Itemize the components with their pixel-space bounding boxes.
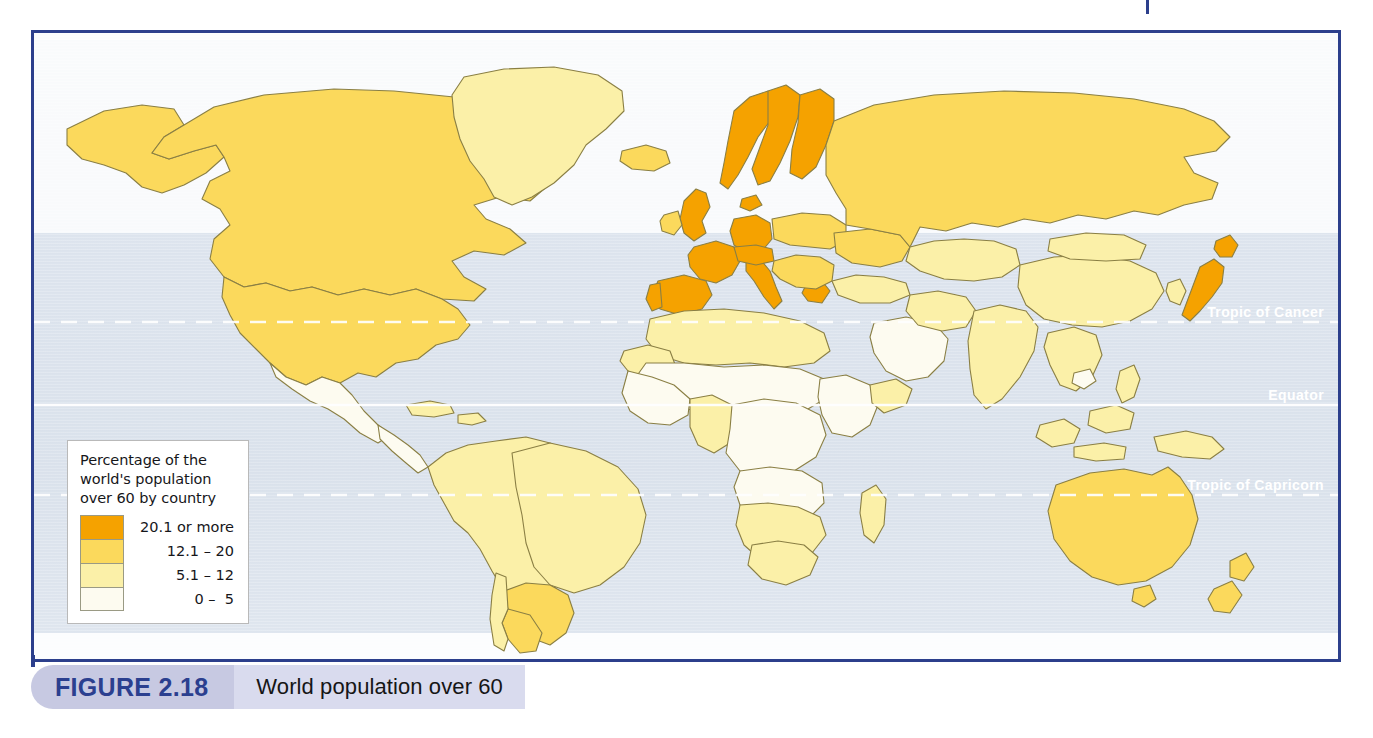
region-indonesia-java bbox=[1074, 443, 1126, 461]
legend-row: 0 – 5 bbox=[80, 587, 238, 611]
region-switzerland-austria bbox=[734, 245, 774, 265]
legend-swatch-tier-2 bbox=[80, 563, 124, 587]
legend-swatch-tier-3 bbox=[80, 587, 124, 611]
equator-label: Equator bbox=[1268, 387, 1324, 403]
legend-row: 12.1 – 20 bbox=[80, 539, 238, 563]
map-legend: Percentage of the world's population ove… bbox=[67, 440, 249, 624]
legend-label-tier-1: 12.1 – 20 bbox=[124, 539, 238, 563]
legend-label-tier-2: 5.1 – 12 bbox=[124, 563, 238, 587]
page-canvas: Tropic of Cancer Equator Tropic of Capri… bbox=[0, 0, 1373, 738]
figure-frame: Tropic of Cancer Equator Tropic of Capri… bbox=[31, 30, 1341, 662]
legend-row: 20.1 or more bbox=[80, 515, 238, 539]
page-rule-tick bbox=[1146, 0, 1149, 14]
tropic-of-cancer-label: Tropic of Cancer bbox=[1207, 304, 1324, 320]
figure-caption-text: World population over 60 bbox=[234, 665, 525, 709]
figure-number: FIGURE 2.18 bbox=[31, 665, 234, 709]
legend-title: Percentage of the world's population ove… bbox=[80, 451, 238, 508]
legend-rows: 20.1 or more 12.1 – 20 5.1 – 12 0 – 5 bbox=[80, 515, 238, 611]
legend-swatch-tier-0 bbox=[80, 515, 124, 539]
legend-label-tier-3: 0 – 5 bbox=[124, 587, 238, 611]
legend-label-tier-0: 20.1 or more bbox=[124, 515, 238, 539]
figure-caption: FIGURE 2.18 World population over 60 bbox=[31, 665, 525, 709]
tropic-of-capricorn-label: Tropic of Capricorn bbox=[1187, 477, 1324, 493]
legend-swatch-tier-1 bbox=[80, 539, 124, 563]
legend-row: 5.1 – 12 bbox=[80, 563, 238, 587]
south-polar-wash bbox=[34, 633, 1338, 659]
